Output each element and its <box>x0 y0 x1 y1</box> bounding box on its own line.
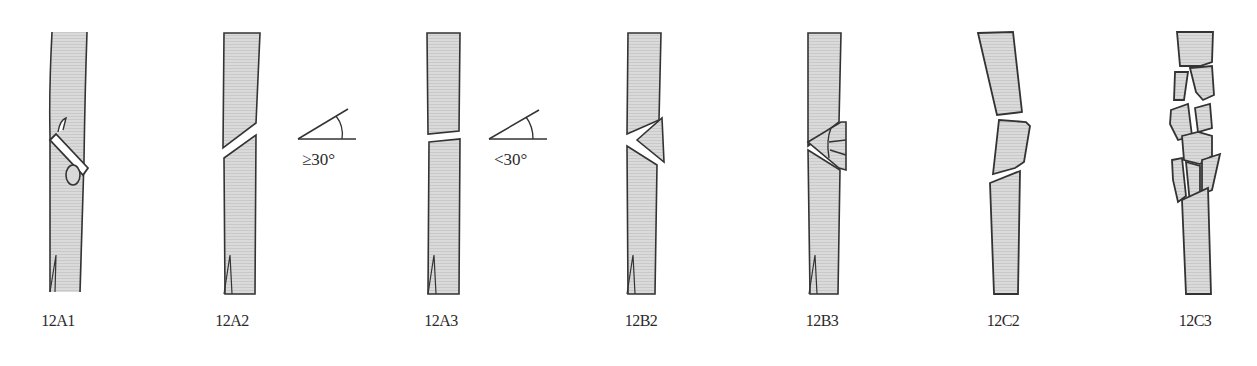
angle-symbol-lt30 <box>489 110 547 139</box>
bone-12B2 <box>627 33 664 294</box>
bone-12C3 <box>1170 32 1220 294</box>
bone-12A3 <box>427 33 460 294</box>
label-12C2: 12C2 <box>963 312 1043 330</box>
label-12A1: 12A1 <box>18 312 98 330</box>
label-12C3: 12C3 <box>1155 312 1235 330</box>
bone-12C2 <box>978 32 1030 294</box>
label-12A3: 12A3 <box>401 312 481 330</box>
bone-12A2 <box>223 33 260 294</box>
bone-12B3 <box>808 33 846 294</box>
angle-symbol-ge30 <box>298 109 356 139</box>
bone-12A1 <box>50 32 88 292</box>
label-12A2: 12A2 <box>192 312 272 330</box>
label-12B3: 12B3 <box>782 312 862 330</box>
angle-label-ge30: ≥30° <box>302 150 335 170</box>
label-12B2: 12B2 <box>601 312 681 330</box>
angle-label-lt30: <30° <box>494 150 527 170</box>
